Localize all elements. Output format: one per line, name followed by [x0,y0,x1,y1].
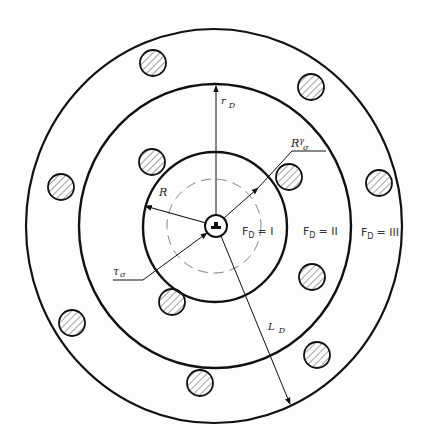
hatched-disk [159,289,185,315]
r-sigma-line [143,233,207,280]
hatched-disk [187,370,213,396]
diagram-canvas: rD R Rγσ τσ LD FD= I FD= II FD= III [0,0,424,447]
zone-label-2: FD= II [303,225,338,240]
R-gamma-sigma-label: Rγσ [290,136,309,152]
R-label: R [158,186,167,199]
hatched-disk [304,342,330,368]
hatched-disk [140,50,166,76]
r-d-label: rD [221,95,236,110]
hatched-disk [298,74,324,100]
hatched-disk [48,174,74,200]
hatched-disk [139,149,165,175]
hatched-disk [299,264,325,290]
hatched-disk [366,170,392,196]
concentric-zones-diagram: rD R Rγσ τσ LD FD= I FD= II FD= III [0,0,424,447]
hatched-disk [276,164,302,190]
L-d-label: LD [267,321,286,335]
R-gamma-sigma-line [224,188,258,218]
r-sigma-label: τσ [113,265,126,279]
zone-label-3: FD= III [361,226,399,241]
R-dimension-line [145,206,206,223]
zone-label-1: FD= I [242,225,273,240]
hatched-disk [59,310,85,336]
